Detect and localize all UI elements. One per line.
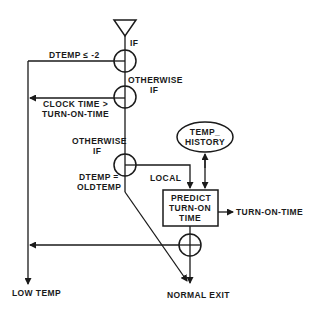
process-label-3: TIME	[179, 213, 201, 223]
predict-turn-on-time-process: PREDICT TURN-ON TIME	[163, 190, 218, 226]
dtemp-equal-condition-label-2: OLDTEMP	[77, 182, 121, 192]
clock-time-condition-label-2: TURN-ON-TIME	[42, 109, 109, 119]
dtemp-low-condition-label: DTEMP ≤ -2	[49, 50, 100, 60]
low-temp-exit-label: LOW TEMP	[12, 288, 61, 298]
otherwise-if-label-2: IF	[93, 146, 101, 156]
process-label-2: TURN-ON	[169, 203, 211, 213]
otherwise-label-1: OTHERWISE	[128, 75, 183, 85]
process-label-1: PREDICT	[171, 193, 212, 203]
temp-history-label-1: TEMP_	[190, 127, 220, 137]
dtemp-equal-condition-label-1: DTEMP =	[79, 172, 119, 182]
entry-if-label: IF	[130, 38, 138, 48]
temp-history-label-2: HISTORY	[185, 137, 225, 147]
normal-exit-label: NORMAL EXIT	[167, 290, 230, 300]
flowchart-diagram: IF DTEMP ≤ -2 OTHERWISE IF CLOCK TIME > …	[0, 0, 319, 316]
condition-node-2	[114, 86, 136, 108]
condition-node-1	[114, 50, 136, 72]
local-label: LOCAL	[150, 173, 181, 183]
otherwise-label-2: OTHERWISE	[72, 136, 127, 146]
condition-node-4	[179, 234, 201, 256]
temp-history-data-store: TEMP_ HISTORY	[177, 122, 233, 152]
entry-triangle-icon	[114, 20, 136, 36]
otherwise-if-label-1: IF	[150, 85, 158, 95]
clock-time-condition-label-1: CLOCK TIME >	[43, 99, 108, 109]
turn-on-time-output-label: TURN-ON-TIME	[236, 207, 303, 217]
